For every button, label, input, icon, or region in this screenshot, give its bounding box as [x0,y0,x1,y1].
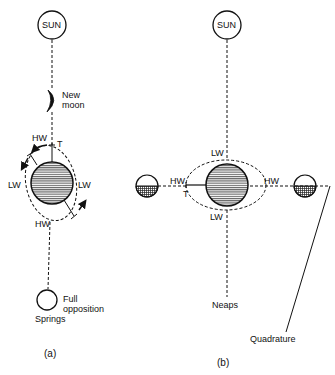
tide-marker-b-label: T [183,189,189,199]
quarter-moon-left [136,175,158,197]
hw-b-left-label: HW [170,176,185,186]
full-label-1: Full [63,294,78,304]
hw-a-bottom-tick [71,214,77,219]
quarter-moon-right [294,175,316,197]
panel-b [136,11,330,332]
hw-b-right-label: HW [264,176,279,186]
hw-a-top-label: HW [32,133,47,143]
tide-marker-a-label: T [57,139,63,149]
full-label-2: opposition [63,304,104,314]
rotation-arrow-top-icon [34,145,47,150]
full-moon-circle [37,290,57,310]
panel-a [19,11,84,310]
new-moon-crescent-icon [47,90,54,112]
neaps-label: Neaps [212,300,238,310]
lw-b-bottom-label: LW [210,212,223,222]
earth-a [31,162,73,204]
axis-a-lower [48,222,50,289]
new-moon-label-2: moon [62,100,85,110]
sun-b-label: SUN [217,20,236,30]
lw-b-top-label: LW [211,148,224,158]
springs-label: Springs [35,314,66,324]
lw-a-right-label: LW [78,180,91,190]
lw-a-left-label: LW [8,180,21,190]
quadrature-pointer [286,186,330,332]
quadrature-label: Quadrature [250,334,296,344]
hw-a-bottom-label: HW [35,219,50,229]
rotation-arrow-right-icon [79,203,84,210]
new-moon-label-1: New [62,90,80,100]
earth-b [206,164,248,206]
caption-a: (a) [44,349,56,359]
sun-a-label: SUN [42,20,61,30]
caption-b: (b) [217,358,229,368]
hw-a-top-marker [30,154,37,165]
